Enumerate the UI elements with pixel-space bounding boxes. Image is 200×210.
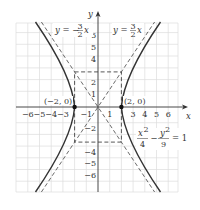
svg-text:4: 4 xyxy=(142,110,147,119)
svg-text:2: 2 xyxy=(77,30,82,39)
svg-text:6: 6 xyxy=(166,110,171,119)
svg-text:−5: −5 xyxy=(84,159,96,168)
svg-text:2: 2 xyxy=(165,125,170,134)
svg-text:−6: −6 xyxy=(22,110,34,119)
svg-text:3: 3 xyxy=(131,110,136,119)
svg-text:5: 5 xyxy=(91,43,96,52)
svg-text:1: 1 xyxy=(107,110,112,119)
vertex-left-label: (−2, 0) xyxy=(44,97,72,106)
hyperbola-plot: y x −6 −5 −4 −3 −1 1 3 4 5 6 6 5 4 2 1 −… xyxy=(0,0,200,210)
svg-text:y = −: y = − xyxy=(54,25,79,35)
svg-text:5: 5 xyxy=(154,110,159,119)
svg-text:−4: −4 xyxy=(45,110,57,119)
svg-text:x: x xyxy=(138,128,143,138)
svg-text:1: 1 xyxy=(91,90,96,99)
svg-text:2: 2 xyxy=(91,78,96,87)
x-axis-label: x xyxy=(186,111,191,121)
vertex-right-point xyxy=(119,105,123,109)
axes xyxy=(16,11,188,192)
svg-text:x: x xyxy=(84,25,89,35)
svg-text:4: 4 xyxy=(140,140,145,149)
equation-label: x 2 4 − y 2 9 = 1 xyxy=(136,125,194,150)
svg-text:−2: −2 xyxy=(84,124,96,133)
x-tick-labels: −6 −5 −4 −3 −1 1 3 4 5 6 xyxy=(22,110,171,119)
svg-text:2: 2 xyxy=(130,30,135,39)
vertex-right-label: (2, 0) xyxy=(124,97,146,106)
svg-text:9: 9 xyxy=(161,140,166,149)
svg-text:4: 4 xyxy=(91,55,96,64)
asymptote-negative-label: y = − 3 2 x xyxy=(53,22,93,39)
svg-text:= 1: = 1 xyxy=(172,133,187,143)
asymptote-positive-label: y = 3 2 x xyxy=(112,22,144,39)
svg-text:2: 2 xyxy=(144,125,149,134)
svg-text:−4: −4 xyxy=(84,148,96,157)
grid xyxy=(16,23,178,192)
svg-text:−5: −5 xyxy=(34,110,46,119)
y-axis-label: y xyxy=(87,9,93,19)
svg-text:y =: y = xyxy=(112,25,128,35)
svg-text:x: x xyxy=(137,25,142,35)
svg-text:−: − xyxy=(151,133,158,143)
svg-text:−6: −6 xyxy=(84,171,96,180)
vertex-left-point xyxy=(72,105,76,109)
svg-text:−1: −1 xyxy=(80,110,92,119)
svg-text:−3: −3 xyxy=(57,110,69,119)
